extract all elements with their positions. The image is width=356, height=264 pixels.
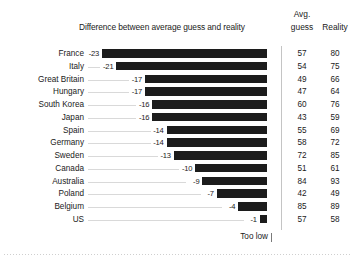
leader-line [88, 92, 129, 93]
country-label: Canada [0, 164, 84, 174]
leader-line [88, 220, 244, 221]
difference-value-label: -7 [200, 189, 214, 199]
chart-row: Hungary-174764 [0, 86, 356, 99]
country-label: South Korea [0, 100, 84, 110]
reality-value: 85 [318, 151, 352, 161]
country-label: US [0, 215, 84, 225]
difference-value-label: -21 [99, 62, 113, 72]
country-label: Belgium [0, 202, 84, 212]
reality-value: 69 [318, 126, 352, 136]
leader-line [88, 131, 151, 132]
bar [152, 113, 267, 122]
reality-value: 58 [318, 215, 352, 225]
leader-line [88, 143, 151, 144]
chart-row: Belgium-48589 [0, 201, 356, 214]
avg-guess-value: 85 [289, 202, 315, 212]
leader-line [88, 105, 136, 106]
bar [217, 189, 267, 198]
difference-value-label: -16 [135, 113, 149, 123]
avg-guess-value: 49 [289, 75, 315, 85]
chart-row: Sweden-137285 [0, 150, 356, 163]
difference-value-label: -1 [243, 215, 257, 225]
chart-row: Great Britain-174966 [0, 74, 356, 87]
country-label: France [0, 49, 84, 59]
reality-value: 61 [318, 164, 352, 174]
column-header-reality: Reality [318, 22, 352, 32]
bar [102, 49, 267, 58]
bar [145, 87, 267, 96]
reality-value: 76 [318, 100, 352, 110]
reality-value: 72 [318, 138, 352, 148]
reality-value: 89 [318, 202, 352, 212]
bar [116, 62, 267, 71]
bar [145, 75, 267, 84]
column-header-guess: guess [289, 22, 315, 32]
bar [174, 151, 267, 160]
too-low-annotation: Too low [196, 232, 268, 241]
difference-value-label: -23 [85, 49, 99, 59]
chart-row: Australia-98493 [0, 176, 356, 189]
difference-value-label: -9 [185, 177, 199, 187]
avg-guess-value: 54 [289, 62, 315, 72]
country-label: Sweden [0, 151, 84, 161]
country-label: Spain [0, 126, 84, 136]
chart-title: Difference between average guess and rea… [79, 22, 245, 32]
avg-guess-value: 57 [289, 49, 315, 59]
axis-tick-mark [271, 233, 272, 242]
avg-guess-value: 60 [289, 100, 315, 110]
bar [195, 164, 267, 173]
leader-line [88, 169, 179, 170]
chart-row: Germany-145872 [0, 137, 356, 150]
chart-row: US-15758 [0, 214, 356, 227]
chart-row: Japan-164359 [0, 112, 356, 125]
leader-line [88, 194, 201, 195]
reality-value: 80 [318, 49, 352, 59]
difference-value-label: -13 [157, 151, 171, 161]
country-label: Hungary [0, 87, 84, 97]
avg-guess-value: 72 [289, 151, 315, 161]
bar [167, 138, 267, 147]
bottom-dotted-divider [4, 254, 352, 255]
avg-guess-value: 57 [289, 215, 315, 225]
avg-guess-value: 42 [289, 189, 315, 199]
reality-value: 59 [318, 113, 352, 123]
chart-row: France-235780 [0, 48, 356, 61]
difference-value-label: -4 [221, 202, 235, 212]
reality-value: 75 [318, 62, 352, 72]
country-label: Germany [0, 138, 84, 148]
leader-line [88, 156, 158, 157]
leader-line [88, 182, 186, 183]
chart-row: Poland-74249 [0, 188, 356, 201]
bar-chart: Difference between average guess and rea… [0, 0, 356, 264]
column-header-avg: Avg. [289, 9, 315, 19]
country-label: Australia [0, 177, 84, 187]
difference-value-label: -17 [128, 75, 142, 85]
chart-row: South Korea-166076 [0, 99, 356, 112]
difference-value-label: -14 [150, 126, 164, 136]
country-label: Great Britain [0, 75, 84, 85]
reality-value: 66 [318, 75, 352, 85]
chart-rows: France-235780Italy-215475Great Britain-1… [0, 48, 356, 227]
difference-value-label: -10 [178, 164, 192, 174]
country-label: Italy [0, 62, 84, 72]
bar [260, 215, 267, 224]
leader-line [88, 80, 129, 81]
difference-value-label: -16 [135, 100, 149, 110]
avg-guess-value: 55 [289, 126, 315, 136]
reality-value: 49 [318, 189, 352, 199]
bar [167, 126, 267, 135]
bar [202, 177, 267, 186]
chart-row: Spain-145569 [0, 125, 356, 138]
country-label: Poland [0, 189, 84, 199]
avg-guess-value: 84 [289, 177, 315, 187]
bar [238, 202, 267, 211]
chart-row: Canada-105161 [0, 163, 356, 176]
leader-line [88, 118, 136, 119]
avg-guess-value: 58 [289, 138, 315, 148]
reality-value: 93 [318, 177, 352, 187]
leader-line [88, 207, 222, 208]
avg-guess-value: 47 [289, 87, 315, 97]
difference-value-label: -17 [128, 87, 142, 97]
bar [152, 100, 267, 109]
difference-value-label: -14 [150, 138, 164, 148]
